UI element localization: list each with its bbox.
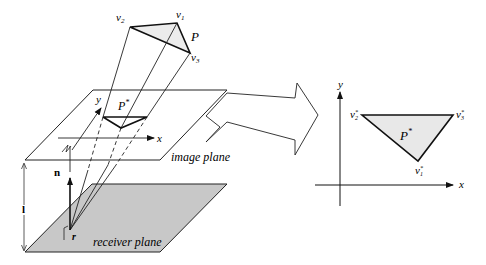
right-v2-label: v*2 — [350, 108, 358, 121]
right-x-label: x — [458, 178, 464, 190]
polygon-p — [130, 23, 190, 53]
diagram-canvas: v2 v1 v3 P P* y x image plane receiver p… — [0, 0, 486, 265]
projected-triangle — [103, 117, 147, 128]
image-y-label: y — [95, 93, 101, 105]
receiver-plane-label: receiver plane — [93, 235, 162, 249]
image-y-axis — [72, 108, 101, 150]
right-v3-label: v*3 — [456, 108, 464, 121]
v1-label: v1 — [176, 8, 184, 22]
polygon-p-label: P — [190, 29, 199, 44]
v3-label: v3 — [191, 51, 200, 65]
image-plane-label: image plane — [171, 150, 231, 164]
normal-label: n — [54, 166, 60, 178]
p-star-label: P* — [117, 98, 129, 113]
distance-label: l — [22, 203, 25, 215]
image-x-label: x — [156, 132, 162, 144]
point-r-label: r — [72, 231, 76, 242]
right-v1-label: v*1 — [415, 164, 423, 177]
v2-label: v2 — [116, 11, 125, 25]
right-y-label: y — [337, 78, 343, 90]
